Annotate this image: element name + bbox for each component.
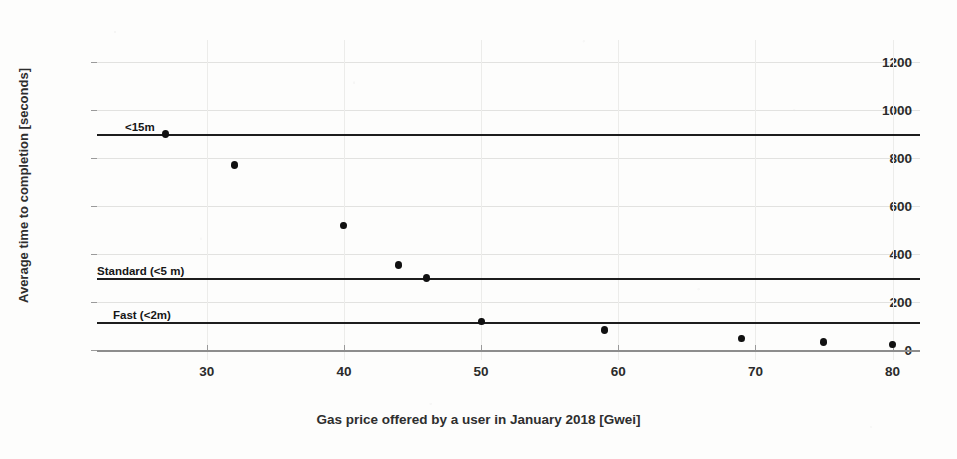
- plot-area: 020040060080010001200304050607080<15mSta…: [97, 40, 920, 360]
- x-axis-tick-label: 60: [611, 364, 626, 379]
- x-gridline: [481, 40, 482, 360]
- y-gridline: [97, 206, 920, 207]
- x-axis-tick-label: 40: [336, 364, 351, 379]
- data-point: [478, 318, 485, 326]
- data-point: [889, 341, 896, 349]
- y-gridline: [97, 110, 920, 111]
- x-axis-line: [97, 350, 920, 351]
- threshold-label: Fast (<2m): [113, 309, 171, 322]
- y-axis-tick-mark: [91, 206, 97, 207]
- threshold-line: [97, 134, 920, 136]
- x-axis-tick-label: 50: [474, 364, 489, 379]
- y-axis-tick-mark: [91, 254, 97, 255]
- threshold-line: [97, 322, 920, 324]
- y-gridline: [97, 62, 920, 63]
- data-point: [162, 130, 169, 138]
- x-axis-tick-label: 80: [885, 364, 900, 379]
- x-axis-title: Gas price offered by a user in January 2…: [0, 412, 957, 427]
- y-gridline: [97, 302, 920, 303]
- data-point: [738, 335, 745, 343]
- data-point: [231, 161, 238, 169]
- threshold-label: <15m: [125, 121, 155, 134]
- threshold-line: [97, 278, 920, 280]
- x-gridline: [207, 40, 208, 360]
- data-point: [820, 338, 827, 346]
- y-axis-tick-mark: [91, 302, 97, 303]
- data-point: [395, 261, 402, 269]
- x-axis-tick-label: 70: [748, 364, 763, 379]
- y-gridline: [97, 254, 920, 255]
- threshold-label: Standard (<5 m): [97, 265, 184, 278]
- y-axis-tick-mark: [91, 158, 97, 159]
- data-point: [601, 326, 608, 334]
- y-axis-title-text: Average time to completion [seconds]: [16, 67, 31, 302]
- data-point: [423, 274, 430, 282]
- y-axis-tick-label: 1000: [882, 102, 912, 117]
- y-axis-tick-label: 1200: [882, 54, 912, 69]
- y-axis-tick-mark: [91, 110, 97, 111]
- data-point: [340, 222, 347, 230]
- chart-figure: Average time to completion [seconds] 020…: [0, 0, 957, 459]
- x-gridline: [893, 40, 894, 360]
- x-gridline: [755, 40, 756, 360]
- x-axis-tick-label: 30: [199, 364, 214, 379]
- x-gridline: [618, 40, 619, 360]
- y-axis-tick-mark: [91, 62, 97, 63]
- y-axis-title: Average time to completion [seconds]: [10, 0, 36, 370]
- x-gridline: [344, 40, 345, 360]
- y-gridline: [97, 158, 920, 159]
